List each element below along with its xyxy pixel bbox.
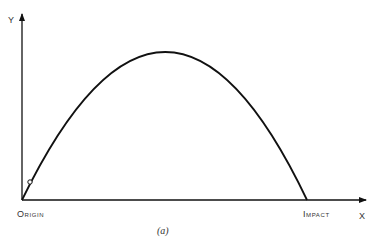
- impact-label: Impact: [303, 210, 330, 219]
- launch-point-marker: [28, 180, 32, 184]
- trajectory-curve: [22, 52, 307, 200]
- figure-caption: (a): [157, 226, 169, 236]
- y-axis-label: Y: [8, 16, 15, 25]
- x-axis-label: X: [359, 212, 366, 221]
- origin-label: Origin: [17, 210, 44, 219]
